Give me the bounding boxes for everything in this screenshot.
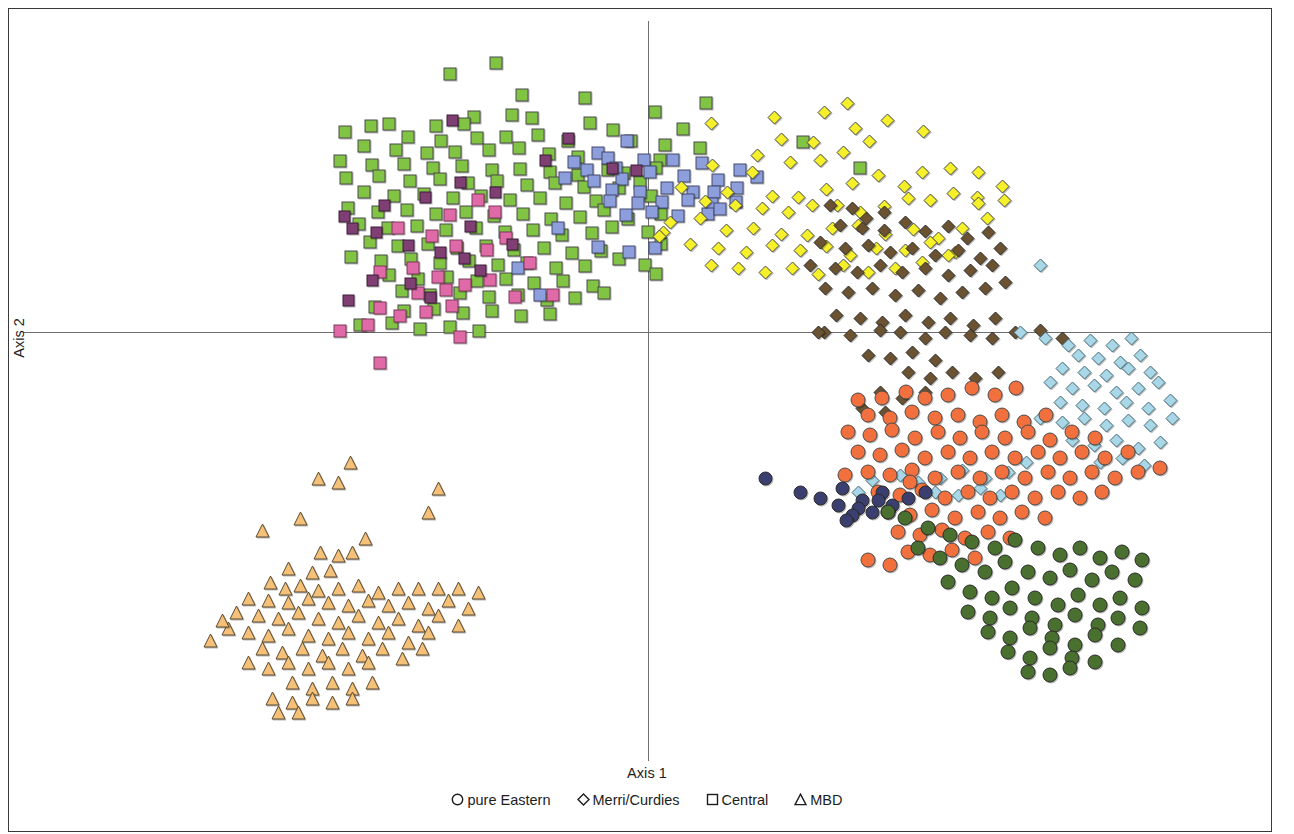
y-axis-line (648, 21, 649, 761)
data-point (843, 328, 858, 343)
data-point (957, 530, 973, 546)
data-point (546, 288, 560, 302)
data-point (361, 593, 376, 608)
data-point (401, 635, 416, 650)
data-point (698, 194, 713, 209)
data-point (1047, 617, 1063, 633)
data-point (711, 241, 726, 256)
data-point (758, 265, 773, 280)
data-point (970, 504, 986, 520)
legend-item-central[interactable]: Central (706, 792, 769, 808)
data-point (897, 510, 913, 526)
data-point (489, 186, 502, 199)
data-point (271, 705, 286, 720)
data-point (997, 554, 1013, 570)
data-point (968, 371, 983, 386)
data-point (391, 611, 406, 626)
data-point (586, 279, 600, 293)
data-point (361, 318, 375, 332)
data-point (555, 228, 569, 242)
data-point (1141, 401, 1156, 416)
data-point (860, 407, 876, 423)
data-point (630, 164, 643, 177)
data-point (660, 181, 674, 195)
data-point (649, 161, 663, 175)
data-point (655, 195, 669, 209)
data-point (565, 246, 579, 260)
data-point (585, 226, 599, 240)
data-point (974, 424, 990, 440)
data-point (373, 301, 387, 315)
data-point (878, 227, 893, 242)
data-point (456, 306, 470, 320)
data-point (533, 288, 547, 302)
data-point (578, 259, 592, 273)
data-point (845, 176, 860, 191)
data-point (410, 219, 424, 233)
data-point (941, 248, 956, 263)
data-point (755, 201, 770, 216)
data-point (458, 278, 472, 292)
data-point (453, 286, 467, 300)
y-axis-label: Axis 2 (11, 298, 27, 378)
data-point (997, 430, 1013, 446)
data-point (488, 205, 502, 219)
legend-item-merri-curdies[interactable]: Merri/Curdies (577, 792, 680, 808)
data-point (951, 243, 966, 258)
data-point (1042, 640, 1058, 656)
data-point (341, 201, 355, 215)
data-point (998, 275, 1013, 290)
data-point (873, 258, 888, 273)
data-point (1075, 398, 1090, 413)
data-point (973, 481, 988, 496)
data-point (750, 170, 764, 184)
data-point (612, 181, 626, 195)
legend-item-mbd[interactable]: MBD (794, 792, 842, 808)
data-point (980, 624, 996, 640)
data-point (457, 117, 471, 131)
data-point (434, 134, 448, 148)
data-point (1077, 365, 1092, 380)
data-point (648, 241, 662, 255)
data-point (643, 165, 657, 179)
data-point (906, 222, 921, 237)
data-point (471, 585, 486, 600)
data-point (833, 218, 848, 233)
data-point (459, 205, 473, 219)
data-point (351, 608, 366, 623)
data-point (482, 290, 496, 304)
data-point (1143, 418, 1158, 433)
data-point (837, 467, 853, 483)
data-point (413, 322, 427, 336)
data-point (571, 150, 585, 164)
data-point (883, 245, 898, 260)
legend-item-pure-eastern[interactable]: pure Eastern (451, 792, 550, 808)
data-point (419, 191, 432, 204)
data-point (840, 96, 855, 111)
data-point (551, 221, 565, 235)
data-point (1033, 258, 1048, 273)
data-point (315, 648, 330, 663)
data-point (549, 261, 563, 275)
data-point (1004, 484, 1020, 500)
legend-item-label: Merri/Curdies (593, 792, 680, 808)
data-point (338, 125, 352, 139)
data-point (1027, 490, 1043, 506)
data-point (333, 154, 347, 168)
data-point (527, 276, 541, 290)
data-point (275, 645, 290, 660)
data-point (676, 122, 690, 136)
data-point (371, 615, 386, 630)
data-point (994, 407, 1010, 423)
data-point (321, 655, 336, 670)
data-point (1019, 455, 1034, 470)
data-point (406, 261, 420, 275)
data-point (352, 217, 366, 231)
data-point (1014, 504, 1030, 520)
data-point (633, 175, 647, 189)
data-point (1112, 590, 1128, 606)
data-point (963, 328, 978, 343)
data-point (1062, 562, 1078, 578)
data-point (825, 221, 840, 236)
data-point (1110, 637, 1126, 653)
